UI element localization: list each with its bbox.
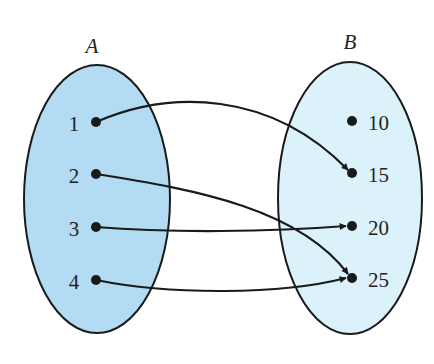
dot-a1 [91,117,101,127]
label-b20: 20 [368,216,389,240]
label-b10: 10 [368,111,389,135]
label-a4: 4 [69,270,80,294]
label-a2: 2 [69,164,80,188]
label-a3: 3 [69,217,80,241]
label-b15: 15 [368,163,389,187]
set-b-label: B [344,30,357,54]
dot-b10 [347,116,357,126]
dot-a3 [91,222,101,232]
set-a-label: A [84,34,99,58]
label-a1: 1 [69,112,80,136]
dot-b25 [347,273,357,283]
dot-b20 [347,221,357,231]
dot-a2 [91,169,101,179]
diagram-canvas: A B 1 2 3 4 10 15 20 25 [0,0,434,364]
mapping-diagram: A B 1 2 3 4 10 15 20 25 [0,0,434,364]
dot-b15 [347,168,357,178]
dot-a4 [91,275,101,285]
set-b-ellipse [278,62,422,334]
label-b25: 25 [368,268,389,292]
